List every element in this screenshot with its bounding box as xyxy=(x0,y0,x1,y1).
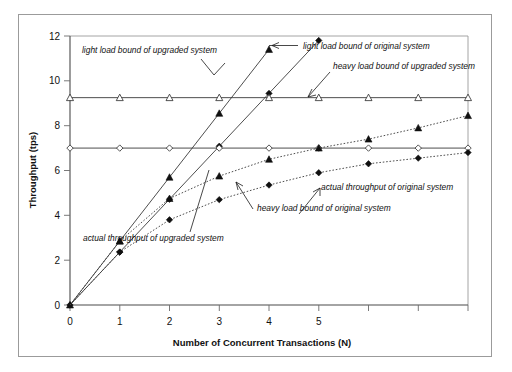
data-point-marker xyxy=(166,217,172,223)
data-point-marker xyxy=(216,173,223,179)
annotation-heavy-load-upgraded: heavy load bound of upgraded system xyxy=(333,61,475,71)
x-tick-label: 4 xyxy=(266,316,272,327)
annotation-labels: light load bound of upgraded system ligh… xyxy=(82,41,475,244)
annotation-light-load-upgraded: light load bound of upgraded system xyxy=(82,45,217,55)
series-2 xyxy=(67,94,472,100)
series-3 xyxy=(67,145,471,151)
x-tick-label: 3 xyxy=(217,316,223,327)
data-point-marker xyxy=(316,170,322,176)
throughput-chart: 0 2 4 6 8 10 12 0 1 2 3 4 5 Number of Co… xyxy=(0,0,512,372)
figure-container: 0 2 4 6 8 10 12 0 1 2 3 4 5 Number of Co… xyxy=(0,0,512,372)
data-point-marker xyxy=(166,145,172,151)
data-point-marker xyxy=(216,196,222,202)
data-point-marker xyxy=(415,145,421,151)
x-tick-label: 0 xyxy=(67,316,73,327)
data-point-marker xyxy=(266,182,272,188)
series-0 xyxy=(67,46,273,308)
axis-lines xyxy=(70,36,468,305)
x-axis-title: Number of Concurrent Transactions (N) xyxy=(173,337,351,348)
data-point-marker xyxy=(266,46,273,52)
annotation-actual-upgraded: actual throughput of upgraded system xyxy=(83,233,224,243)
x-tick-labels: 0 1 2 3 4 5 xyxy=(67,316,322,327)
annotation-actual-original: actual throughput of original system xyxy=(321,182,453,192)
y-tick-label: 12 xyxy=(49,31,61,42)
y-tick-label: 10 xyxy=(49,75,61,86)
data-point-marker xyxy=(365,145,371,151)
y-tick-label: 0 xyxy=(54,300,60,311)
data-point-marker xyxy=(67,145,73,151)
x-tick-label: 2 xyxy=(167,316,173,327)
data-point-marker xyxy=(117,145,123,151)
y-tick-label: 4 xyxy=(54,210,60,221)
x-tick-label: 5 xyxy=(316,316,322,327)
data-series-layer xyxy=(67,37,472,308)
data-point-marker xyxy=(465,112,472,118)
y-tick-label: 8 xyxy=(54,120,60,131)
annotation-light-load-original: light load bound of original system xyxy=(303,41,430,51)
y-axis-title: Throughput (tps) xyxy=(27,132,38,209)
y-tick-labels: 0 2 4 6 8 10 12 xyxy=(49,31,61,311)
annotation-heavy-load-original: heavy load bound of original system xyxy=(257,203,391,213)
data-point-marker xyxy=(365,161,371,167)
data-point-marker xyxy=(415,155,421,161)
data-point-marker xyxy=(266,145,272,151)
y-axis-ticks xyxy=(64,36,70,305)
plot-area-border xyxy=(70,36,468,305)
data-point-marker xyxy=(465,149,471,155)
y-tick-label: 6 xyxy=(54,165,60,176)
x-axis-ticks xyxy=(70,305,468,311)
y-tick-label: 2 xyxy=(54,255,60,266)
x-tick-label: 1 xyxy=(117,316,123,327)
